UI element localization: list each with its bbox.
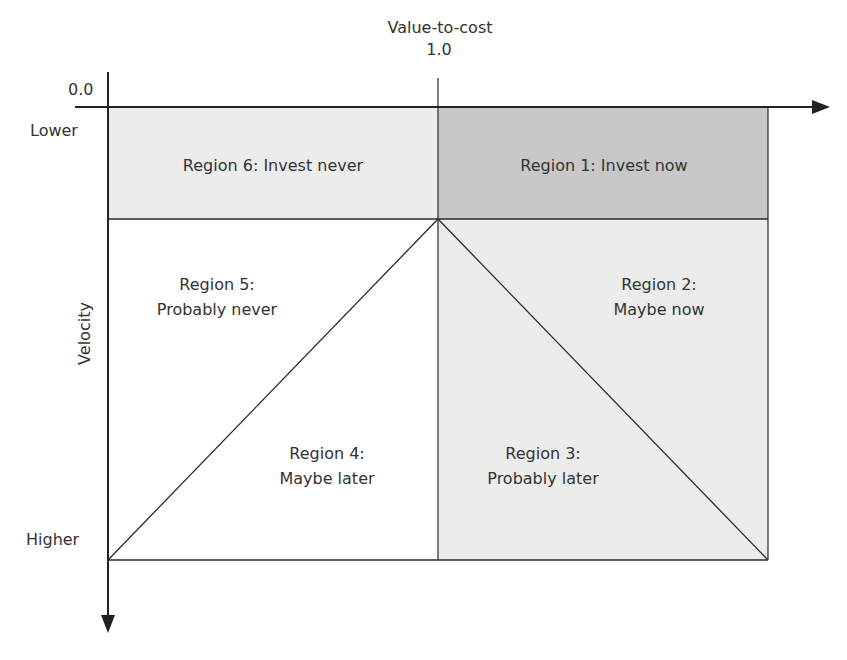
region-4-label-line1: Region 4: [289,444,364,464]
y-axis-title: Velocity [75,294,94,374]
origin-label: 0.0 [68,80,93,100]
y-axis-higher-label: Higher [26,530,79,550]
x-axis-arrow-icon [812,100,830,114]
region-4-label-line2: Maybe later [279,469,374,489]
region-3-label-line2: Probably later [487,469,598,489]
region-1-label: Region 1: Invest now [520,156,687,176]
y-axis-arrow-icon [101,615,115,633]
x-axis-title: Value-to-cost [387,18,492,38]
diagonal-left [108,219,438,560]
region-5-label-line2: Probably never [157,300,277,320]
region-3-label-line1: Region 3: [505,444,580,464]
region-6-label: Region 6: Invest never [183,156,363,176]
region-2-label-line2: Maybe now [613,300,704,320]
region-2-label-line1: Region 2: [621,275,696,295]
y-axis-lower-label: Lower [30,121,78,141]
region-5-label-line1: Region 5: [179,275,254,295]
investment-region-diagram [0,0,847,660]
x-axis-tick-1: 1.0 [426,40,451,60]
